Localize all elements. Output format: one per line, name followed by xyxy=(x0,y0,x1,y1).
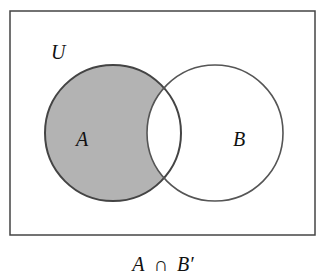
caption-left: A xyxy=(130,253,145,275)
caption-right: B′ xyxy=(177,253,194,275)
set-b-label: B xyxy=(233,128,245,150)
set-a-label: A xyxy=(74,128,89,150)
venn-diagram: U A B A ∩ B′ xyxy=(0,0,327,278)
caption-op: ∩ xyxy=(154,253,168,275)
universe-label: U xyxy=(51,41,67,63)
caption: A ∩ B′ xyxy=(130,253,194,275)
